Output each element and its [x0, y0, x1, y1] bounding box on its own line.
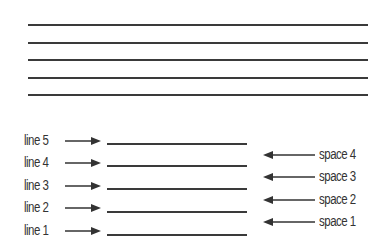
arrow-right-icon — [65, 203, 101, 213]
staff-line-3 — [28, 59, 368, 61]
arrow-right-icon — [65, 136, 101, 146]
space-label-3: space 3 — [319, 168, 356, 184]
arrow-left-icon — [263, 217, 315, 227]
arrow-right-icon — [65, 158, 101, 168]
line-label-3: line 3 — [24, 177, 48, 193]
labeled-staff-line-5 — [107, 143, 247, 145]
line-label-1: line 1 — [24, 222, 48, 238]
line-label-5: line 5 — [24, 132, 48, 148]
labeled-staff-line-4 — [107, 165, 247, 167]
staff-line-4 — [28, 42, 368, 44]
space-label-2: space 2 — [319, 191, 356, 207]
arrow-right-icon — [65, 226, 101, 236]
space-label-4: space 4 — [319, 146, 356, 162]
labeled-staff-line-1 — [107, 234, 247, 236]
arrow-left-icon — [263, 172, 315, 182]
arrow-left-icon — [263, 195, 315, 205]
line-label-4: line 4 — [24, 154, 48, 170]
space-label-1: space 1 — [319, 213, 356, 229]
labeled-staff-line-2 — [107, 211, 247, 213]
labeled-staff-line-3 — [107, 188, 247, 190]
line-label-2: line 2 — [24, 199, 48, 215]
staff-line-5 — [28, 24, 368, 26]
arrow-left-icon — [263, 150, 315, 160]
staff-line-2 — [28, 77, 368, 79]
arrow-right-icon — [65, 181, 101, 191]
staff-line-1 — [28, 94, 368, 96]
